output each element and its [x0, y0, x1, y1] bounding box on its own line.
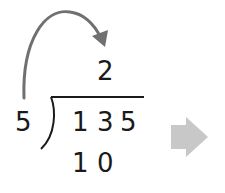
dividend-digit-ones: 5 — [120, 109, 137, 135]
dividend-digit-hundreds: 1 — [72, 109, 89, 135]
dividend-digit-tens: 3 — [97, 109, 114, 135]
curved-arrow-icon — [24, 12, 101, 98]
partial-product-digit-1: 1 — [72, 150, 89, 176]
curved-arrow-head-icon — [92, 30, 108, 47]
division-bracket — [41, 97, 54, 149]
divisor: 5 — [15, 109, 32, 135]
right-arrow-icon — [171, 117, 208, 157]
quotient: 2 — [97, 58, 114, 84]
partial-product-digit-2: 0 — [97, 150, 114, 176]
